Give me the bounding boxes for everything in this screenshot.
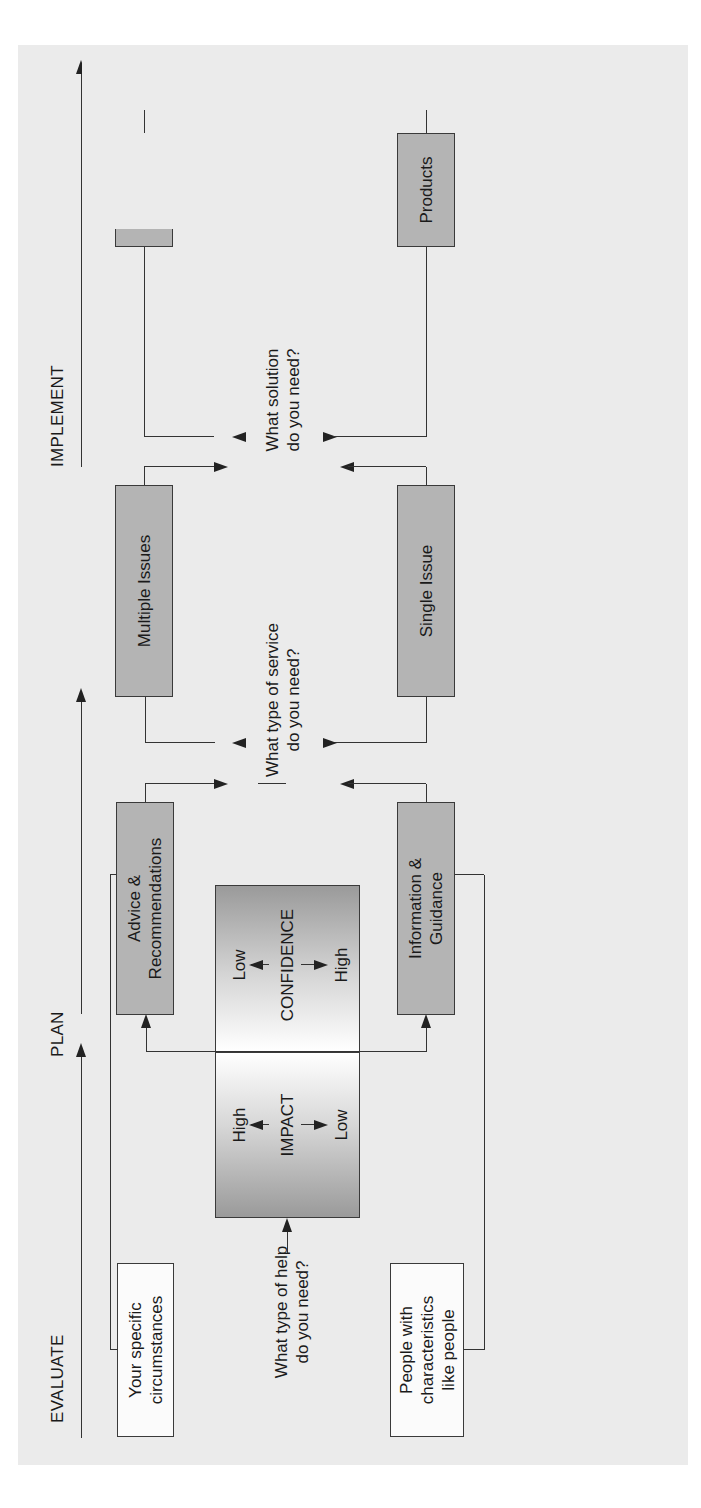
arrow-up-icon [340, 462, 354, 472]
box-text-line: Recommendations [145, 838, 166, 980]
box-text-line: Your specific [125, 1296, 146, 1405]
arrow-down-icon [214, 462, 228, 472]
arrow-up-icon [340, 779, 354, 789]
people-with-characteristics-box: People with characteristics like people [390, 1263, 464, 1437]
connector-line [145, 742, 215, 743]
evaluate-axis-line [81, 1056, 82, 1438]
arrow-up-icon [232, 738, 246, 748]
impact-title: IMPACT [277, 1085, 298, 1165]
question-line: What type of help [271, 1227, 292, 1397]
connector-line [426, 247, 427, 437]
question-line: do you need? [283, 600, 304, 800]
arrow-right-icon [282, 1218, 292, 1232]
connector-line [145, 697, 146, 743]
connector-line [333, 742, 426, 743]
connector-line [426, 697, 427, 743]
box-text: Multiple Issues [134, 535, 155, 647]
box-text-line: circumstances [146, 1296, 167, 1405]
arrow-up-icon [232, 432, 246, 442]
connector-line [144, 436, 214, 437]
multiple-issues-box: Multiple Issues [115, 485, 173, 697]
single-issue-box: Single Issue [397, 485, 455, 697]
products-box: Products [397, 133, 455, 247]
arrow-down-icon [214, 779, 228, 789]
box-text-line: Advice & [124, 838, 145, 980]
arrow-up-icon [249, 960, 263, 970]
box-text-line: like people [438, 1296, 459, 1405]
help-question-text: What type of help do you need? [271, 1227, 313, 1397]
box-text: Products [416, 156, 437, 223]
box-text-line: Information & [405, 858, 426, 959]
connector-line [145, 783, 215, 784]
service-question-text: What type of service do you need? [262, 600, 304, 800]
arrow-down-icon [323, 432, 337, 442]
confidence-high-label: High [331, 935, 352, 995]
connector-line [146, 1025, 147, 1052]
arrow-down-icon [314, 1120, 328, 1130]
arrow-down-icon [314, 960, 328, 970]
advice-recommendations-box: Advice & Recommendations [116, 802, 174, 1015]
services-list-box [82, 58, 208, 229]
question-line: What type of service [262, 600, 283, 800]
connector-line [110, 1349, 118, 1350]
information-guidance-box: Information & Guidance [397, 802, 455, 1015]
evaluate-arrow-icon [76, 1043, 86, 1057]
arrow-up-icon [249, 1120, 263, 1130]
connector-line [426, 1025, 427, 1052]
question-line: do you need? [283, 315, 304, 485]
help-arrow-line [287, 1231, 288, 1253]
box-text-line: People with [396, 1296, 417, 1405]
advice-process-diagram: EVALUATE PLAN IMPLEMENT Your specific ci… [18, 45, 688, 1465]
connector-line [144, 466, 214, 467]
arrow-down-icon [323, 738, 337, 748]
connector-line [426, 467, 427, 485]
stage-label-plan: PLAN [48, 1011, 68, 1057]
connector-line [426, 784, 427, 802]
connector-line [144, 467, 145, 485]
arrow-right-icon [141, 1014, 151, 1028]
connector-line [464, 1349, 484, 1350]
question-line: What solution [262, 315, 283, 485]
top-rail-line [110, 875, 111, 1350]
arrow-right-icon [421, 1014, 431, 1028]
connector-line [348, 783, 426, 784]
connector-line [144, 247, 145, 437]
split-connector-line [146, 1051, 426, 1052]
connector-line [145, 784, 146, 802]
your-specific-circumstances-box: Your specific circumstances [117, 1263, 174, 1437]
stage-label-evaluate: EVALUATE [48, 1334, 68, 1423]
confidence-title: CONFIDENCE [277, 905, 298, 1025]
confidence-low-label: Low [229, 935, 250, 995]
connector-line [333, 436, 426, 437]
question-line: do you need? [292, 1227, 313, 1397]
box-text-line: Guidance [426, 858, 447, 959]
connector-line [348, 466, 426, 467]
connector-line [455, 874, 484, 875]
box-text: Single Issue [416, 545, 437, 638]
plan-arrow-icon [76, 688, 86, 702]
impact-low-label: Low [331, 1095, 352, 1155]
plan-axis-line [81, 701, 82, 1014]
impact-high-label: High [229, 1095, 250, 1155]
box-text-line: characteristics [417, 1296, 438, 1405]
stage-label-implement: IMPLEMENT [48, 365, 68, 467]
solution-question-text: What solution do you need? [262, 315, 304, 485]
bottom-rail-line [484, 875, 485, 1350]
